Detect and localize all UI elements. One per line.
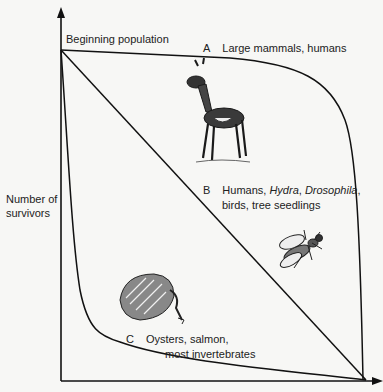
start-label: Beginning population — [66, 33, 169, 46]
curve-a-label: ALarge mammals, humans — [203, 42, 346, 55]
y-axis-arrow-icon — [57, 7, 65, 18]
curve-b-line2: birds, tree seedlings — [203, 198, 361, 213]
curve-c-text: Oysters, salmon, — [146, 333, 229, 345]
curve-b-text-1: Humans, — [222, 184, 269, 196]
y-axis-label-line1: Number of — [6, 192, 57, 206]
y-axis-label: Number of survivors — [6, 192, 57, 220]
x-axis-arrow-icon — [372, 377, 383, 385]
y-axis-label-line2: survivors — [6, 206, 57, 220]
fruit-fly-illustration — [278, 230, 323, 270]
antelope-illustration — [187, 58, 250, 162]
curve-b-text-hydra: Hydra — [269, 184, 298, 196]
curve-b-letter: B — [203, 183, 210, 198]
curve-c-letter: C — [126, 332, 134, 347]
curve-b — [61, 50, 366, 380]
curve-a-text: Large mammals, humans — [222, 42, 346, 54]
curve-b-text-comma: , — [357, 184, 360, 196]
curve-c-line2: most invertebrates — [126, 347, 255, 362]
oyster-illustration — [120, 274, 184, 324]
curve-b-text-drosophila: Drosophila — [305, 184, 358, 196]
curve-c-label: COysters, salmon, most invertebrates — [126, 332, 255, 362]
curve-a-letter: A — [203, 42, 210, 55]
curve-b-label: BHumans, Hydra, Drosophila, birds, tree … — [203, 183, 361, 213]
